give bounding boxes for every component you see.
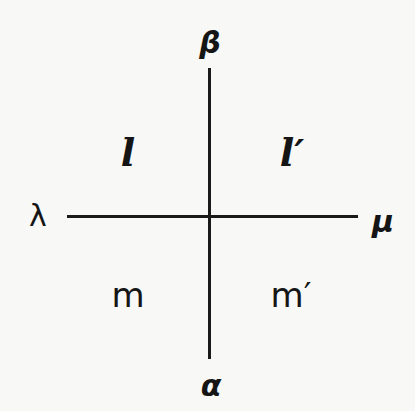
quadrant-label-bottom-right: m′ [271,278,312,312]
quadrant-label-top-left: l [121,134,135,172]
vertical-line-alpha-beta [208,68,211,359]
quadrant-label-bottom-left: m [111,278,144,312]
horizontal-line-lambda-mu [67,215,358,218]
quadrant-label-top-right: l′ [280,134,304,172]
label-alpha: α [201,371,222,401]
label-lambda: λ [29,201,47,231]
label-mu: μ [372,207,394,237]
diagram-canvas: β α λ μ l l′ m m′ [0,0,415,411]
label-beta: β [199,28,220,58]
